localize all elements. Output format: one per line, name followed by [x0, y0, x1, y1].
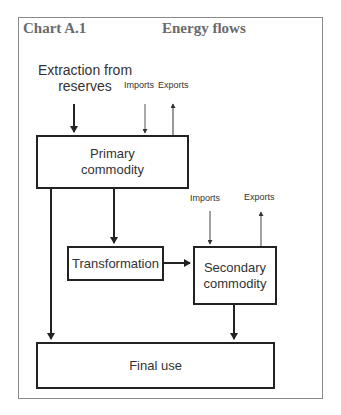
- flow-arrows: [0, 0, 341, 415]
